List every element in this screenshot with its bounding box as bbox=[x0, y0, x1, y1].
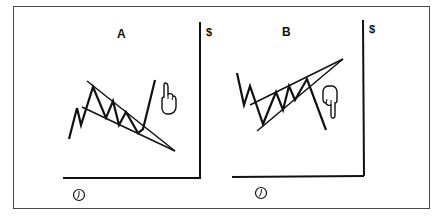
panel-a-label: A bbox=[117, 27, 126, 41]
panel-b: B $ bbox=[232, 20, 375, 199]
panel-b-x-axis bbox=[232, 176, 364, 177]
hand-pointing-down-icon bbox=[323, 86, 337, 118]
panel-a-price-line bbox=[69, 80, 155, 139]
panel-b-price-line bbox=[237, 73, 326, 130]
hand-pointing-up-icon bbox=[162, 83, 176, 114]
panel-b-label: B bbox=[282, 25, 291, 39]
panel-b-dollar-label: $ bbox=[369, 23, 375, 35]
panel-a-clock-icon bbox=[74, 190, 85, 201]
wedge-diagram: A $ B $ bbox=[0, 0, 445, 216]
panel-a-dollar-label: $ bbox=[206, 26, 212, 38]
panel-b-y-axis bbox=[363, 20, 364, 176]
panel-a: A $ bbox=[63, 22, 212, 201]
panel-b-clock-icon bbox=[256, 188, 267, 199]
